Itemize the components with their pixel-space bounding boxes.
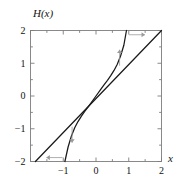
x-tick-label: −1 xyxy=(58,165,69,176)
y-tick-label: −1 xyxy=(15,123,26,134)
curve-H-curve xyxy=(65,31,127,162)
figure-panel: H(x) x −2−1012−1012 xyxy=(0,0,183,187)
x-tick-label: 0 xyxy=(94,165,99,176)
plot-canvas: −2−1012−1012 xyxy=(0,0,183,187)
y-tick-label: 2 xyxy=(21,25,26,36)
y-tick-label: −2 xyxy=(15,156,26,167)
curve-identity-line xyxy=(35,31,161,162)
axis-tick-labels: −2−1012−1012 xyxy=(15,25,164,176)
x-tick-label: 1 xyxy=(126,165,131,176)
y-tick-label: 1 xyxy=(21,58,26,69)
arrow-top-right-head xyxy=(142,32,145,37)
y-tick-label: 0 xyxy=(21,90,26,101)
data-curves xyxy=(35,31,161,162)
x-tick-label: 2 xyxy=(159,165,164,176)
